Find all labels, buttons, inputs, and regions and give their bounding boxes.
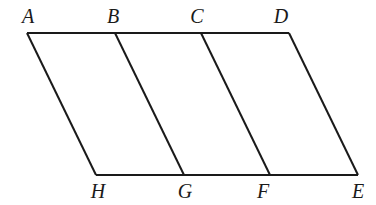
divider-CF	[201, 33, 270, 175]
vertex-label-e: E	[352, 181, 364, 201]
vertex-label-f: F	[257, 181, 269, 201]
side-AH	[27, 33, 96, 175]
vertex-label-b: B	[107, 6, 119, 26]
vertex-label-d: D	[274, 6, 288, 26]
geometry-figure: ABCDHGFE	[0, 0, 376, 205]
figure-canvas	[0, 0, 376, 205]
divider-BG	[115, 33, 184, 175]
side-DE	[289, 33, 358, 175]
vertex-label-c: C	[190, 6, 203, 26]
vertex-label-g: G	[178, 181, 192, 201]
segment-group	[27, 33, 358, 175]
vertex-label-a: A	[22, 6, 34, 26]
vertex-label-h: H	[91, 181, 105, 201]
